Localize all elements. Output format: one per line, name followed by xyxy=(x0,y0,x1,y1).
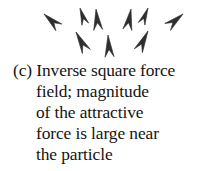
arrow-upper-right-outer xyxy=(165,11,186,31)
arrow-lower-right xyxy=(134,29,152,53)
inverse-square-force-field-figure: (c) Inverse square force field; magnitud… xyxy=(0,0,224,171)
arrow-lower-center xyxy=(104,35,115,58)
arrow-upper-center-right-head xyxy=(123,8,136,30)
caption-line-1: (c) Inverse square force xyxy=(0,60,224,81)
arrow-lower-center-head xyxy=(104,35,115,58)
arrow-upper-right-outer-head xyxy=(165,11,186,31)
arrow-lower-left xyxy=(72,30,90,54)
caption-line-2: field; magnitude xyxy=(0,81,224,102)
caption-line-5: the particle xyxy=(0,144,224,165)
vector-field-svg xyxy=(0,0,224,58)
vector-field-diagram xyxy=(0,0,224,58)
arrow-upper-center-right xyxy=(123,8,136,30)
arrow-upper-left-outer-head xyxy=(41,11,62,31)
arrow-upper-left-inner-head xyxy=(77,7,89,25)
arrow-upper-left-inner xyxy=(77,7,89,25)
arrow-upper-center-left xyxy=(92,9,103,31)
caption-line-3: of the attractive xyxy=(0,102,224,123)
arrow-upper-right-inner xyxy=(138,7,151,25)
arrow-lower-right-head xyxy=(134,29,152,53)
arrow-upper-center-left-head xyxy=(92,9,103,31)
arrow-upper-left-outer xyxy=(41,11,62,31)
figure-caption: (c) Inverse square force field; magnitud… xyxy=(0,60,224,165)
caption-line-4: force is large near xyxy=(0,123,224,144)
arrow-lower-left-head xyxy=(72,30,90,54)
arrow-upper-right-inner-head xyxy=(138,7,151,25)
